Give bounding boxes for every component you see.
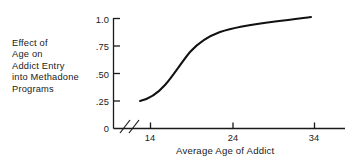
y-tick-label-0.50: .50 xyxy=(83,70,109,80)
x-tick-label-34: 34 xyxy=(299,133,329,143)
chart-figure: Effect of Age on Addict Entry into Metha… xyxy=(0,0,360,163)
y-tick-label-0.75: .75 xyxy=(83,42,109,52)
x-axis-title: Average Age of Addict xyxy=(176,145,274,156)
caption-line: Programs xyxy=(12,84,98,95)
y-tick-label-0: 0 xyxy=(83,124,109,134)
data-curve-methadone-entry xyxy=(140,17,311,101)
x-tick-label-14: 14 xyxy=(135,133,165,143)
y-tick-label-0.25: .25 xyxy=(83,97,109,107)
axis-break-marks xyxy=(120,120,139,133)
x-tick-label-24: 24 xyxy=(218,133,248,143)
y-tick-label-1.0: 1.0 xyxy=(83,15,109,25)
